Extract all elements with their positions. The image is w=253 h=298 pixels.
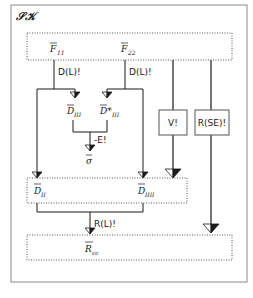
- d-box-item-d-iiii: D IIII: [137, 184, 155, 198]
- d-state-box: [27, 178, 187, 203]
- op-d-right-label: D(L)!: [129, 67, 152, 77]
- op-v-label: V!: [168, 118, 178, 128]
- svg-text:III: III: [73, 111, 82, 118]
- diagram-canvas: 𝒮𝒦 F 11 F 22 D(L)! D(L)! D III D* III: [0, 0, 253, 298]
- arrowhead-icon: [203, 224, 219, 233]
- diagram-title: 𝒮𝒦: [15, 10, 39, 23]
- svg-text:R: R: [84, 244, 92, 254]
- arrowhead-icon: [165, 169, 181, 178]
- svg-text:D*: D*: [99, 106, 112, 116]
- svg-text:D: D: [66, 106, 74, 116]
- top-box-item-f11: F 11: [49, 43, 65, 56]
- svg-text:F: F: [120, 44, 128, 54]
- r-state-box: [27, 235, 232, 260]
- arrowhead-icon: [102, 92, 112, 98]
- svg-text:σ: σ: [86, 156, 93, 166]
- node-d-star-iii: D* III: [99, 105, 120, 118]
- arrowhead-icon: [85, 228, 95, 234]
- op-rse-label: R(SE)!: [198, 118, 226, 128]
- arrowhead-icon: [70, 92, 80, 98]
- outer-frame: [11, 5, 247, 282]
- svg-text:F: F: [49, 44, 57, 54]
- svg-text:II: II: [40, 191, 46, 198]
- svg-text:IIII: IIII: [144, 191, 155, 198]
- rl-join: [37, 203, 143, 229]
- arrowhead-icon: [32, 172, 42, 178]
- d-box-item-d-ii: D II: [33, 184, 46, 198]
- svg-text:D: D: [33, 186, 41, 196]
- node-sigma: σ: [86, 155, 93, 166]
- svg-text:22: 22: [127, 49, 136, 56]
- top-box-item-f22: F 22: [120, 43, 136, 56]
- op-e-label: -E!: [94, 135, 107, 145]
- arrowhead-icon: [138, 172, 148, 178]
- svg-text:D: D: [137, 186, 145, 196]
- node-d-iii: D III: [66, 105, 82, 118]
- svg-text:cc: cc: [92, 249, 99, 256]
- op-rl-label: R(L)!: [94, 219, 116, 229]
- svg-text:11: 11: [57, 49, 65, 56]
- arrowhead-icon: [85, 145, 95, 151]
- op-d-left-label: D(L)!: [58, 67, 81, 77]
- svg-text:III: III: [111, 111, 120, 118]
- r-box-item-r-cc: R cc: [84, 242, 99, 256]
